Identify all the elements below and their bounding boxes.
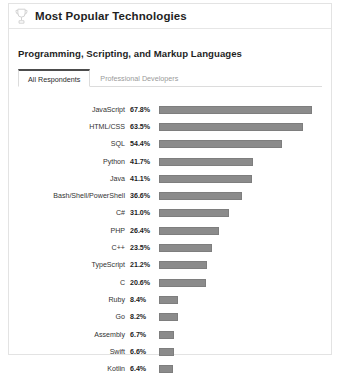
bar-value-label: 67.8% <box>130 106 159 114</box>
bar-category-label: C <box>18 279 130 287</box>
bar-fill <box>159 244 212 252</box>
bar-value-label: 20.6% <box>130 279 159 287</box>
bar-track <box>159 175 322 183</box>
bar-row: C++23.5% <box>18 239 322 256</box>
bar-category-label: Bash/Shell/PowerShell <box>18 192 130 200</box>
bar-category-label: Swift <box>18 348 130 356</box>
bar-track <box>159 244 322 252</box>
bar-category-label: Java <box>18 175 130 183</box>
bar-fill <box>159 348 174 356</box>
bar-category-label: Go <box>18 313 130 321</box>
bar-track <box>159 158 322 166</box>
bar-track <box>159 227 322 235</box>
bar-row: C#31.0% <box>18 205 322 222</box>
card-title: Most Popular Technologies <box>35 10 187 22</box>
bar-row: Kotlin6.4% <box>18 360 322 373</box>
bar-track <box>159 348 322 356</box>
bar-track <box>159 192 322 200</box>
bar-category-label: Python <box>18 158 130 166</box>
card-header: Most Popular Technologies <box>9 4 331 29</box>
bar-fill <box>159 331 174 339</box>
bar-fill <box>159 313 178 321</box>
bar-fill <box>159 140 282 148</box>
bar-row: HTML/CSS63.5% <box>18 118 322 135</box>
bar-category-label: HTML/CSS <box>18 123 130 131</box>
bar-fill <box>159 279 206 287</box>
bar-track <box>159 365 322 373</box>
bar-row: Python41.7% <box>18 153 322 170</box>
bar-value-label: 36.6% <box>130 192 159 200</box>
bar-track <box>159 261 322 269</box>
bar-row: C20.6% <box>18 274 322 291</box>
section-title: Programming, Scripting, and Markup Langu… <box>18 48 322 59</box>
bar-value-label: 6.4% <box>130 365 159 373</box>
bar-value-label: 63.5% <box>130 123 159 131</box>
bar-track <box>159 209 322 217</box>
bar-category-label: C# <box>18 209 130 217</box>
bar-row: Go8.2% <box>18 309 322 326</box>
bar-value-label: 41.1% <box>130 175 159 183</box>
bar-track <box>159 123 322 131</box>
bar-fill <box>159 106 312 114</box>
bar-category-label: C++ <box>18 244 130 252</box>
bar-value-label: 6.7% <box>130 331 159 339</box>
bar-value-label: 23.5% <box>130 244 159 252</box>
bar-category-label: PHP <box>18 227 130 235</box>
bar-fill <box>159 192 242 200</box>
bar-track <box>159 140 322 148</box>
tab-all-respondents[interactable]: All Respondents <box>18 69 90 87</box>
bar-fill <box>159 158 253 166</box>
bar-fill <box>159 365 173 373</box>
bar-category-label: Assembly <box>18 331 130 339</box>
bar-category-label: Ruby <box>18 296 130 304</box>
trophy-icon <box>14 8 29 25</box>
bar-value-label: 31.0% <box>130 209 159 217</box>
bar-value-label: 41.7% <box>130 158 159 166</box>
bar-fill <box>159 209 229 217</box>
bar-row: PHP26.4% <box>18 222 322 239</box>
bar-category-label: SQL <box>18 140 130 148</box>
bar-category-label: JavaScript <box>18 106 130 114</box>
bar-fill <box>159 123 303 131</box>
bar-value-label: 6.6% <box>130 348 159 356</box>
bar-track <box>159 279 322 287</box>
bar-value-label: 54.4% <box>130 140 159 148</box>
bar-track <box>159 106 322 114</box>
bar-row: SQL54.4% <box>18 136 322 153</box>
bar-row: Bash/Shell/PowerShell36.6% <box>18 187 322 204</box>
bar-value-label: 21.2% <box>130 261 159 269</box>
bar-track <box>159 296 322 304</box>
bar-row: TypeScript21.2% <box>18 257 322 274</box>
bar-row: Java41.1% <box>18 170 322 187</box>
bar-fill <box>159 261 207 269</box>
bar-track <box>159 313 322 321</box>
bar-row: Swift6.6% <box>18 343 322 360</box>
bar-value-label: 8.2% <box>130 313 159 321</box>
bar-track <box>159 331 322 339</box>
bar-fill <box>159 296 178 304</box>
bar-category-label: Kotlin <box>18 365 130 373</box>
tab-professional-developers[interactable]: Professional Developers <box>90 69 188 87</box>
bar-value-label: 26.4% <box>130 227 159 235</box>
technologies-bar-chart: JavaScript67.8%HTML/CSS63.5%SQL54.4%Pyth… <box>18 101 322 373</box>
bar-value-label: 8.4% <box>130 296 159 304</box>
bar-row: Ruby8.4% <box>18 291 322 308</box>
card-body: Programming, Scripting, and Markup Langu… <box>9 48 331 373</box>
bar-fill <box>159 227 219 235</box>
most-popular-technologies-card: Most Popular Technologies Programming, S… <box>8 3 332 355</box>
bar-row: Assembly6.7% <box>18 326 322 343</box>
bar-fill <box>159 175 252 183</box>
tab-bar: All Respondents Professional Developers <box>18 68 322 87</box>
bar-row: JavaScript67.8% <box>18 101 322 118</box>
bar-category-label: TypeScript <box>18 261 130 269</box>
